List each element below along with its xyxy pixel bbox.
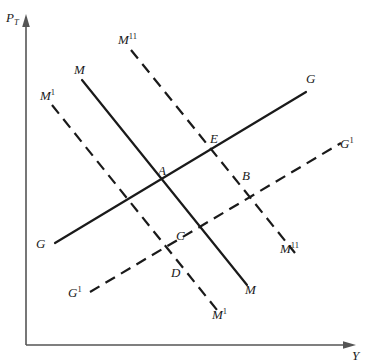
curve-label-M1-top: M1 [39,87,55,103]
point-label-D: D [170,265,181,280]
curve-label-G1-left: G1 [68,284,82,300]
point-label-B: B [242,168,250,183]
curve-M11 [131,50,295,253]
curve-label-G-left: G [36,236,46,251]
curve-label-M1-bottom: M1 [211,306,227,322]
curve-label-M11-top: M11 [117,31,137,47]
curve-G1 [90,143,341,292]
curve-label-M11-bottom: M11 [279,240,299,256]
economics-diagram: PT Y M M M1 M1 M11 M11 G G G1 G1 A B C D… [0,0,369,364]
curve-label-G-right: G [306,71,316,86]
x-axis-label: Y [352,348,361,363]
curve-M1 [52,105,217,310]
point-label-C: C [176,228,185,243]
point-label-A: A [157,163,166,178]
point-label-E: E [209,131,218,146]
curve-M [82,80,247,285]
y-axis-label: PT [5,10,20,27]
y-axis-arrowhead [22,14,30,27]
curve-label-M-top: M [73,62,86,77]
curve-label-M-bottom: M [244,282,257,297]
diagram-canvas: PT Y M M M1 M1 M11 M11 G G G1 G1 A B C D… [0,0,369,364]
curve-label-G1-right: G1 [340,135,354,151]
